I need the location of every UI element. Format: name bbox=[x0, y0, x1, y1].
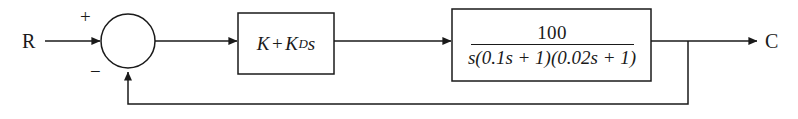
controller-proportional-gain: K bbox=[257, 34, 270, 53]
summing-junction-circle bbox=[101, 14, 155, 68]
controller-laplace-variable: s bbox=[308, 34, 315, 53]
block-diagram: R C + − K+KDs 100 s(0.1s + 1)(0.02s + 1) bbox=[0, 0, 798, 119]
controller-derivative-subscript: D bbox=[298, 37, 308, 50]
output-signal-label: C bbox=[765, 31, 778, 51]
summing-junction-minus-sign: − bbox=[90, 62, 101, 81]
controller-derivative-gain: K bbox=[285, 34, 298, 53]
plant-transfer-function: 100 s(0.1s + 1)(0.02s + 1) bbox=[453, 10, 651, 80]
input-signal-label: R bbox=[22, 31, 35, 51]
controller-transfer-function: K+KDs bbox=[238, 13, 334, 74]
controller-plus-operator: + bbox=[269, 34, 285, 53]
summing-junction-plus-sign: + bbox=[80, 7, 91, 26]
plant-numerator: 100 bbox=[537, 23, 566, 44]
diagram-canvas bbox=[0, 0, 798, 119]
plant-denominator: s(0.1s + 1)(0.02s + 1) bbox=[468, 45, 636, 67]
